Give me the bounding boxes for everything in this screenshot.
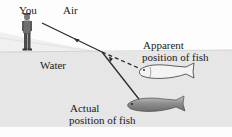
apparent-position-label-line2: position of fish [142, 52, 209, 63]
shore-ground [0, 32, 100, 52]
air-label: Air [63, 5, 78, 16]
water-label: Water [40, 60, 66, 71]
apparent-position-label-line1: Apparent [143, 40, 184, 51]
observer-label: You [19, 5, 37, 16]
refraction-diagram: You Air Water Apparent position of fish … [0, 0, 232, 137]
actual-position-label-line1: Actual [70, 103, 99, 114]
actual-position-label-line2: position of fish [69, 115, 136, 126]
